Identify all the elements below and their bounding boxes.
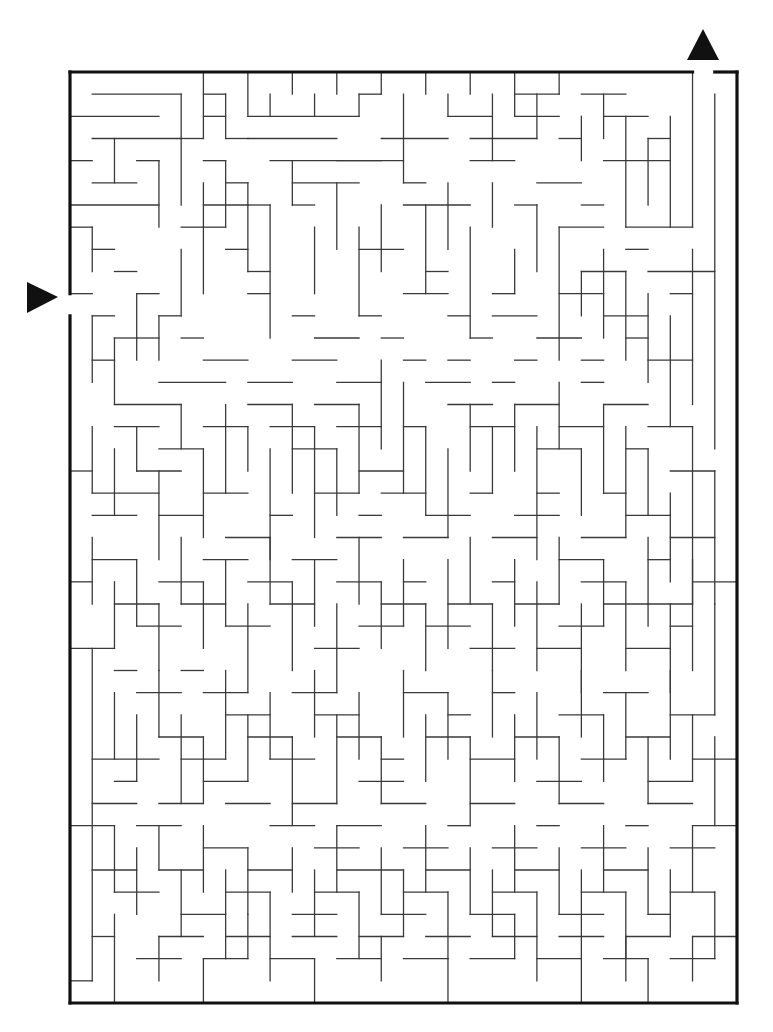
finish-arrow-icon [687, 29, 719, 60]
start-arrow-icon [27, 282, 58, 313]
maze-walls [70, 72, 737, 1003]
maze-board [0, 0, 773, 1032]
